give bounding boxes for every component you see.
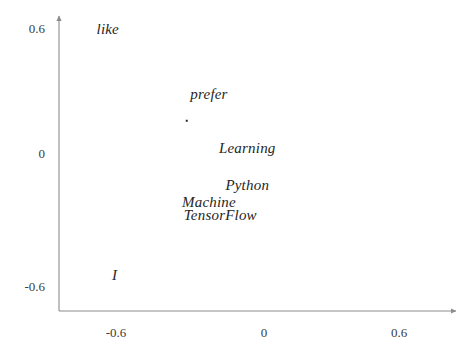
word-label: prefer bbox=[190, 86, 227, 101]
x-tick-label-2: 0.6 bbox=[391, 326, 407, 339]
y-tick-label-1: 0 bbox=[0, 147, 45, 160]
x-tick-label-0: -0.6 bbox=[106, 326, 127, 339]
data-point-marker bbox=[185, 120, 188, 123]
scatter-plot: 0.6 0 -0.6 -0.6 0 0.6 likepreferLearning… bbox=[0, 0, 470, 354]
word-label: like bbox=[97, 22, 119, 37]
word-label: I bbox=[112, 267, 117, 282]
y-tick-label-0: 0.6 bbox=[0, 22, 45, 35]
word-label: Learning bbox=[219, 140, 276, 155]
x-tick-label-1: 0 bbox=[261, 326, 268, 339]
word-label: TensorFlow bbox=[184, 207, 257, 222]
word-label: Python bbox=[225, 178, 269, 193]
y-tick-label-2: -0.6 bbox=[0, 280, 45, 293]
